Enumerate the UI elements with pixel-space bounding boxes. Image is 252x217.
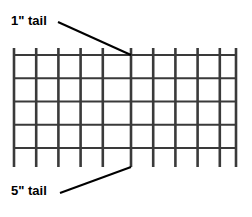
leader-lines — [58, 22, 131, 193]
top-tail-leader-line — [58, 22, 131, 55]
bottom-tail-label: 5" tail — [11, 184, 47, 197]
bottom-tail-leader-line — [60, 167, 131, 193]
wire-mesh-diagram: 1" tail 5" tail — [0, 0, 252, 217]
vertical-wires — [14, 48, 236, 167]
horizontal-wires — [14, 55, 236, 148]
top-tail-label: 1" tail — [11, 14, 47, 27]
